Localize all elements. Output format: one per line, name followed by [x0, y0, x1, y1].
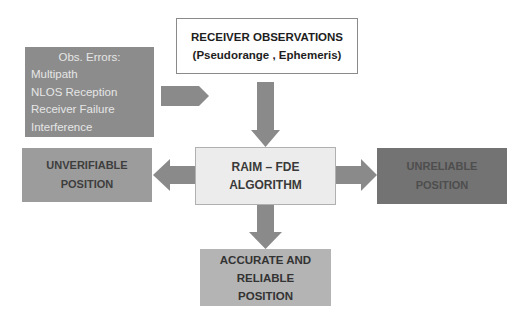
unreliable-line2: POSITION	[416, 176, 469, 195]
raim-to-accurate-arrow	[249, 205, 282, 249]
accurate-line3: POSITION	[238, 287, 293, 305]
accurate-line2: RELIABLE	[237, 269, 295, 287]
accurate-line1: ACCURATE AND	[220, 251, 311, 269]
error-item: Receiver Failure	[31, 101, 115, 119]
observations-title: RECEIVER OBSERVATIONS	[191, 28, 343, 46]
errors-header: Obs. Errors:	[59, 49, 121, 67]
observations-to-raim-arrow	[251, 82, 280, 147]
errors-to-flow-arrow	[161, 86, 209, 106]
unverifiable-line2: POSITION	[61, 175, 114, 194]
error-item: Multipath	[31, 66, 78, 84]
unverifiable-line1: UNVERIFIABLE	[46, 156, 127, 175]
error-item: Interference	[31, 119, 92, 137]
raim-title: RAIM – FDE	[231, 158, 299, 176]
observation-errors-box: Obs. Errors: Multipath NLOS Reception Re…	[25, 47, 154, 137]
observations-subtitle: (Pseudorange , Ephemeris)	[193, 46, 342, 64]
unreliable-position-box: UNRELIABLE POSITION	[377, 148, 507, 204]
raim-subtitle: ALGORITHM	[229, 176, 302, 194]
raim-to-unverifiable-arrow	[153, 159, 195, 191]
unverifiable-position-box: UNVERIFIABLE POSITION	[22, 148, 152, 202]
receiver-observations-box: RECEIVER OBSERVATIONS (Pseudorange , Eph…	[176, 18, 358, 74]
unreliable-line1: UNRELIABLE	[407, 157, 478, 176]
raim-fde-algorithm-box: RAIM – FDE ALGORITHM	[195, 147, 336, 205]
error-item: NLOS Reception	[31, 84, 117, 102]
accurate-reliable-position-box: ACCURATE AND RELIABLE POSITION	[200, 249, 331, 306]
raim-to-unreliable-arrow	[336, 159, 377, 191]
